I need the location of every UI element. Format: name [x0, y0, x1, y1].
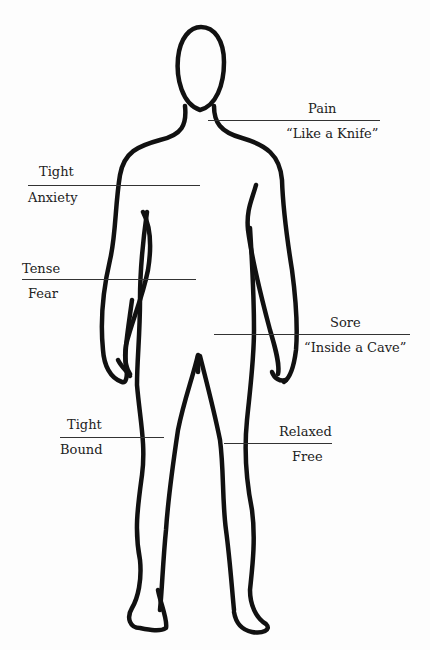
right-leg-pointer-line — [60, 437, 164, 438]
upper-torso-pointer-line — [28, 185, 200, 186]
abdomen-pointer-line — [22, 279, 196, 280]
left-leg-bottom-label: Free — [292, 450, 323, 463]
pelvis-bottom-label: “Inside a Cave” — [304, 341, 406, 354]
left-leg-pointer-line — [224, 443, 332, 444]
abdomen-top-label: Tense — [22, 262, 60, 275]
body-map-diagram: Pain “Like a Knife” Tight Anxiety Tense … — [0, 0, 430, 650]
left-inner-leg — [160, 355, 198, 610]
right-leg-top-label: Tight — [67, 418, 102, 431]
right-leg-bottom-label: Bound — [60, 443, 102, 456]
human-body-outline — [0, 0, 430, 650]
pelvis-pointer-line — [214, 334, 410, 335]
left-leg-top-label: Relaxed — [279, 425, 332, 438]
chest-top-label: Pain — [308, 102, 336, 115]
abdomen-bottom-label: Fear — [28, 287, 58, 300]
chest-pointer-line — [208, 120, 380, 121]
chest-bottom-label: “Like a Knife” — [286, 127, 378, 140]
right-inner-leg — [200, 356, 234, 610]
head-outline — [178, 27, 224, 110]
upper-torso-top-label: Tight — [39, 165, 74, 178]
right-torso-leg — [234, 228, 268, 633]
pelvis-top-label: Sore — [330, 316, 361, 329]
upper-torso-bottom-label: Anxiety — [28, 191, 78, 204]
